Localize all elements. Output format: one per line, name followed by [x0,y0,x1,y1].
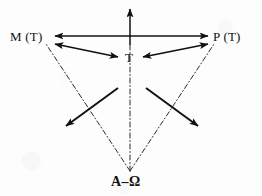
inner-arrow-down-right-line [146,88,198,126]
right-to-center-arrow-line [143,44,208,57]
node-label-origin: A–Ω [111,175,141,189]
node-label-right: P (T) [213,30,241,43]
origin-to-left-dashdot-line [46,44,130,171]
node-label-center: T [125,51,133,64]
node-label-left: M (T) [10,30,42,43]
diagram-canvas: M (T) P (T) T A–Ω [0,0,262,196]
left-to-center-arrow-line [55,44,118,57]
inner-arrow-down-left-line [66,88,118,126]
